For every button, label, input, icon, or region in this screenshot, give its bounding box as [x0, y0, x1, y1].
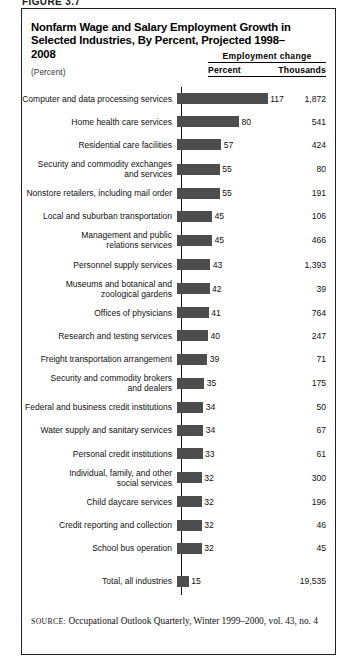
bar — [177, 496, 202, 507]
bar-percent-label: 35 — [204, 378, 216, 388]
bar — [177, 188, 220, 199]
row-label-line: Management and public — [22, 230, 172, 240]
row-label: Individual, family, and othersocial serv… — [22, 468, 177, 488]
bar-zone: 117 — [177, 87, 317, 110]
bar-zone: 35 — [177, 371, 317, 396]
row-label: Residential care facilities — [22, 140, 177, 150]
bar — [177, 425, 203, 436]
bar — [177, 448, 203, 459]
bar-percent-label: 55 — [220, 188, 232, 198]
bar-zone: 34 — [177, 396, 317, 419]
bar-zone: 57 — [177, 133, 317, 156]
table-row: Child daycare services32196 — [22, 490, 335, 513]
bar-percent-label: 32 — [202, 473, 214, 483]
row-label-line: Local and suburban transportation — [22, 211, 172, 221]
thousands-value: 46 — [316, 520, 326, 530]
row-label: Security and commodity exchangesand serv… — [22, 159, 177, 179]
bar — [177, 520, 202, 531]
row-label-line: Personnel supply services — [22, 260, 172, 270]
thousands-value: 67 — [316, 425, 326, 435]
row-label: Personnel supply services — [22, 260, 177, 270]
thousands-value: 300 — [312, 473, 326, 483]
column-group-header: Employment change — [208, 51, 326, 63]
table-row: Personal credit institutions3361 — [22, 442, 335, 465]
row-label-line: Research and testing services — [22, 331, 172, 341]
bar-zone: 43 — [177, 253, 317, 276]
row-label: Freight transportation arrangement — [22, 354, 177, 364]
thousands-value: 39 — [316, 284, 326, 294]
column-header-percent: Percent — [208, 65, 252, 75]
bar-zone: 34 — [177, 419, 317, 442]
bar — [177, 472, 202, 483]
row-label: Home health care services — [22, 117, 177, 127]
bar — [177, 402, 203, 413]
bar-percent-label: 32 — [202, 520, 214, 530]
row-label-line: School bus operation — [22, 543, 172, 553]
table-row: School bus operation3245 — [22, 537, 335, 560]
row-label-line: social services — [22, 478, 172, 488]
bar — [177, 543, 202, 554]
bar-zone: 45 — [177, 228, 317, 253]
bar — [177, 164, 220, 175]
row-label-line: Freight transportation arrangement — [22, 354, 172, 364]
figure-caption: FIGURE 3.7 — [22, 0, 80, 7]
row-label: Child daycare services — [22, 497, 177, 507]
bar — [177, 93, 268, 104]
thousands-value: 191 — [312, 188, 326, 198]
bar-percent-label: 43 — [210, 260, 222, 270]
table-row: Security and commodity brokersand dealer… — [22, 371, 335, 396]
bar-zone: 41 — [177, 301, 317, 324]
thousands-value: 71 — [316, 354, 326, 364]
thousands-value: 1,393 — [304, 260, 326, 270]
row-label-line: and dealers — [22, 383, 172, 393]
row-label: Computer and data processing services — [22, 94, 177, 104]
row-label-line: Water supply and sanitary services — [22, 425, 172, 435]
bar-zone: 42 — [177, 276, 317, 301]
bar — [177, 307, 209, 318]
bar-percent-label: 15 — [189, 576, 201, 586]
bar — [177, 211, 212, 222]
row-label-line: Total, all industries — [22, 576, 172, 586]
row-label-line: Nonstore retailers, including mail order — [22, 188, 172, 198]
thousands-value: 424 — [312, 140, 326, 150]
row-label: Credit reporting and collection — [22, 520, 177, 530]
bar-zone: 15 — [177, 570, 317, 593]
bar-percent-label: 32 — [202, 543, 214, 553]
row-label-line: Child daycare services — [22, 497, 172, 507]
figure-box: Nonfarm Wage and Salary Employment Growt… — [21, 8, 336, 655]
row-label-line: Individual, family, and other — [22, 468, 172, 478]
bar — [177, 259, 210, 270]
table-row: Individual, family, and othersocial serv… — [22, 465, 335, 490]
row-label-line: relations services — [22, 240, 172, 250]
table-row: Personnel supply services431,393 — [22, 253, 335, 276]
thousands-value: 175 — [312, 378, 326, 388]
bar-percent-label: 39 — [207, 354, 219, 364]
table-row: Federal and business credit institutions… — [22, 396, 335, 419]
bar-zone: 55 — [177, 182, 317, 205]
bar-zone: 32 — [177, 537, 317, 560]
row-label-line: Residential care facilities — [22, 140, 172, 150]
bar — [177, 378, 204, 389]
bar-percent-label: 45 — [212, 235, 224, 245]
row-label: Museums and botanical andzoological gard… — [22, 279, 177, 299]
bar-zone: 80 — [177, 110, 317, 133]
row-label: School bus operation — [22, 543, 177, 553]
source-note: SOURCE: Occupational Outlook Quarterly, … — [31, 615, 326, 628]
row-label-line: Computer and data processing services — [22, 94, 172, 104]
table-row: Water supply and sanitary services3467 — [22, 419, 335, 442]
bar-zone: 32 — [177, 465, 317, 490]
thousands-value: 19,535 — [300, 576, 326, 586]
table-row: Total, all industries1519,535 — [22, 570, 335, 593]
thousands-value: 45 — [316, 543, 326, 553]
row-label-line: Personal credit institutions — [22, 449, 172, 459]
table-row: Security and commodity exchangesand serv… — [22, 157, 335, 182]
thousands-value: 106 — [312, 211, 326, 221]
bar — [177, 283, 210, 294]
thousands-value: 541 — [312, 117, 326, 127]
thousands-value: 247 — [312, 331, 326, 341]
bar — [177, 330, 208, 341]
row-label-line: Home health care services — [22, 117, 172, 127]
row-label-line: Security and commodity exchanges — [22, 159, 172, 169]
table-row: Research and testing services40247 — [22, 324, 335, 347]
bar-percent-label: 33 — [203, 449, 215, 459]
